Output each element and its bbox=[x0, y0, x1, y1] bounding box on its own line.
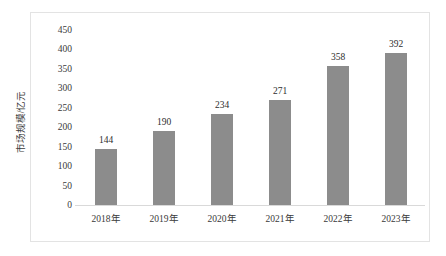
x-axis-tick-label: 2021年 bbox=[251, 213, 309, 225]
x-axis-tick-label: 2019年 bbox=[135, 213, 193, 225]
y-axis-tick-label: 0 bbox=[38, 200, 72, 210]
x-axis-tick-labels: 2018年2019年2020年2021年2022年2023年 bbox=[75, 213, 425, 231]
y-axis-tick-label: 400 bbox=[38, 44, 72, 54]
bar-value-label: 190 bbox=[135, 117, 193, 128]
x-axis-tick-label: 2020年 bbox=[193, 213, 251, 225]
bar[interactable] bbox=[95, 149, 117, 205]
y-axis-tick-label: 250 bbox=[38, 103, 72, 113]
y-axis-title-text: 市场规模/亿元 bbox=[13, 91, 27, 154]
bar[interactable] bbox=[153, 131, 175, 205]
x-axis-tick-label: 2018年 bbox=[77, 213, 135, 225]
bar-value-label: 358 bbox=[309, 52, 367, 63]
y-axis-tick-label: 350 bbox=[38, 64, 72, 74]
x-axis-tick-label: 2022年 bbox=[309, 213, 367, 225]
y-axis-tick-label: 100 bbox=[38, 161, 72, 171]
y-axis-tick-label: 50 bbox=[38, 181, 72, 191]
bar[interactable] bbox=[211, 114, 233, 205]
bar-value-label: 144 bbox=[77, 135, 135, 146]
y-axis-tick-label: 150 bbox=[38, 142, 72, 152]
bar[interactable] bbox=[327, 66, 349, 205]
bar-value-label: 271 bbox=[251, 86, 309, 97]
bar-value-label: 392 bbox=[367, 39, 425, 50]
y-axis-title: 市场规模/亿元 bbox=[12, 62, 28, 182]
x-axis-tick-label: 2023年 bbox=[367, 213, 425, 225]
y-axis-tick-labels: 450400350300250200150100500 bbox=[38, 0, 72, 256]
bar-value-label: 234 bbox=[193, 100, 251, 111]
bar[interactable] bbox=[269, 100, 291, 205]
y-axis-tick-label: 200 bbox=[38, 122, 72, 132]
y-axis-tick-label: 450 bbox=[38, 25, 72, 35]
y-axis-tick-label: 300 bbox=[38, 83, 72, 93]
bar[interactable] bbox=[385, 53, 407, 205]
